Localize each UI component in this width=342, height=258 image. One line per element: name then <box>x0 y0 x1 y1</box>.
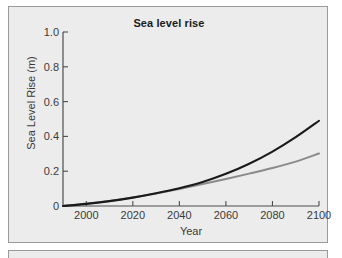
y-tick-label: 0.2 <box>44 165 59 177</box>
x-tick-label: 2080 <box>260 209 284 221</box>
plot-svg <box>63 32 319 206</box>
y-tick-label: 1.0 <box>44 26 59 38</box>
plot-area <box>63 32 319 206</box>
figure-root: Sea level rise 00.20.40.60.81.0 20002020… <box>0 0 342 258</box>
x-tick-label: 2000 <box>74 209 98 221</box>
y-tick-label: 0.4 <box>44 130 59 142</box>
series-line-high-scenario <box>63 121 319 206</box>
x-tick-label: 2100 <box>307 209 331 221</box>
y-tick-label: 0.6 <box>44 96 59 108</box>
x-tick-label: 2040 <box>167 209 191 221</box>
y-tick-label: 0 <box>53 200 59 212</box>
x-axis-title: Year <box>63 225 319 237</box>
x-tick-label: 2020 <box>121 209 145 221</box>
chart-panel: Sea level rise 00.20.40.60.81.0 20002020… <box>8 6 328 243</box>
y-axis-title: Sea Level Rise (m) <box>25 33 37 173</box>
lower-panel <box>8 250 328 258</box>
x-axis-tick-labels: 200020202040206020802100 <box>63 209 319 225</box>
x-tick-label: 2060 <box>214 209 238 221</box>
y-tick-label: 0.8 <box>44 61 59 73</box>
series-line-low-scenario <box>63 153 319 206</box>
